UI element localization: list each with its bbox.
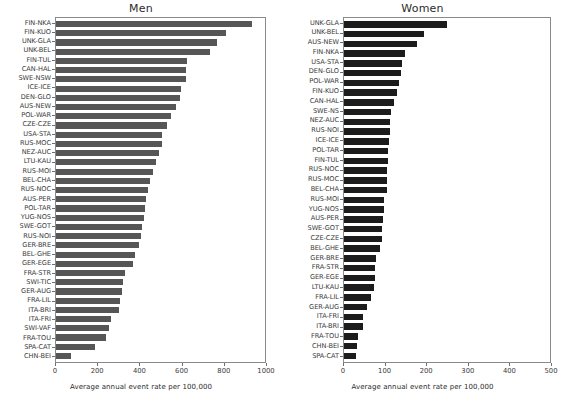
bar-row	[56, 333, 265, 342]
bar	[344, 216, 383, 222]
bar-row	[344, 312, 550, 322]
y-tick-label: GER-BRE	[0, 241, 51, 250]
x-tick-label: 0	[53, 367, 57, 375]
bar	[344, 119, 390, 125]
bar-row	[56, 167, 265, 176]
bar-series-women	[344, 18, 550, 362]
y-tick-label: POL-TAR	[288, 146, 339, 156]
bar	[344, 148, 388, 154]
x-axis-men: 02004006008001000	[55, 363, 266, 385]
bar-row	[344, 205, 550, 215]
y-axis-labels-women: UNK-GLAUNK-BELAUS-NEWFIN-NKAUSA-STADEN-G…	[288, 17, 339, 363]
x-tick-mark	[509, 363, 510, 366]
panel-title-women: Women	[282, 2, 563, 15]
bar	[344, 80, 399, 86]
bar	[344, 226, 382, 232]
y-tick-label: CAN-HAL	[0, 65, 51, 74]
bar-row	[56, 351, 265, 360]
y-tick-label: POL-WAR	[0, 111, 51, 120]
bar	[56, 316, 111, 322]
bar-row	[344, 59, 550, 69]
y-tick-label: RUS-MOI	[0, 167, 51, 176]
y-tick-label: LTU-KAU	[288, 283, 339, 293]
x-tick-mark	[385, 363, 386, 366]
bar-row	[344, 146, 550, 156]
x-tick-label: 400	[133, 367, 146, 375]
x-tick-label: 500	[545, 367, 558, 375]
y-tick-label: RUS-NOI	[288, 126, 339, 136]
y-tick-label: BEL-CHA	[288, 185, 339, 195]
y-tick-label: AUS-NEW	[288, 38, 339, 48]
y-tick-label: YUG-NOS	[0, 213, 51, 222]
bar	[344, 158, 388, 164]
bar-row	[56, 232, 265, 241]
figure-root: Men FIN-NKAFIN-KUOUNK-GLAUNK-BELFIN-TULC…	[0, 0, 563, 411]
bar-row	[56, 158, 265, 167]
bar-row	[344, 29, 550, 39]
bar	[56, 30, 226, 36]
y-tick-label: LTU-KAU	[0, 157, 51, 166]
bar-row	[56, 47, 265, 56]
y-tick-label: UNK-BEL	[0, 46, 51, 55]
bar	[344, 255, 376, 261]
bar	[344, 89, 397, 95]
bar-series-men	[56, 18, 265, 362]
bar-row	[56, 287, 265, 296]
y-tick-label: RUS-MOC	[0, 139, 51, 148]
bar	[344, 187, 387, 193]
x-axis-title-women: Average annual event rate per 100,000	[282, 383, 563, 391]
bar	[344, 314, 363, 320]
bar-row	[344, 195, 550, 205]
plot-area-women	[343, 17, 551, 363]
y-tick-label: ITA-BRI	[0, 306, 51, 315]
x-tick-mark	[139, 363, 140, 366]
bar-row	[56, 75, 265, 84]
y-tick-label: GER-BRE	[288, 254, 339, 264]
bar	[344, 197, 384, 203]
bar-row	[56, 204, 265, 213]
x-tick-label: 0	[341, 367, 345, 375]
bar	[344, 167, 387, 173]
y-tick-label: FIN-TUL	[288, 156, 339, 166]
bar-row	[344, 302, 550, 312]
bar-row	[56, 296, 265, 305]
bar	[344, 41, 417, 47]
y-tick-label: RUS-NOC	[0, 185, 51, 194]
y-tick-label: NEZ-AUC	[288, 116, 339, 126]
y-tick-label: SPA-CAT	[0, 343, 51, 352]
bar-row	[344, 185, 550, 195]
bar	[56, 252, 135, 258]
bar-row	[56, 195, 265, 204]
bar	[56, 279, 123, 285]
bar-row	[56, 20, 265, 29]
panel-title-men: Men	[0, 2, 282, 15]
y-tick-label: SWE-NS	[288, 107, 339, 117]
y-tick-label: UNK-GLA	[288, 19, 339, 29]
bar-row	[56, 130, 265, 139]
bar-row	[56, 324, 265, 333]
bar	[344, 109, 391, 115]
y-tick-label: GER-EGE	[288, 273, 339, 283]
y-tick-label: AUS-NEW	[0, 102, 51, 111]
y-tick-label: CHN-BEI	[0, 352, 51, 361]
bar	[56, 169, 153, 175]
y-tick-label: SPA-CAT	[288, 352, 339, 362]
bar	[56, 325, 109, 331]
bar	[56, 270, 125, 276]
y-tick-label: SWE-GOT	[0, 222, 51, 231]
bar-row	[344, 156, 550, 166]
bar-row	[344, 351, 550, 361]
bar-row	[56, 121, 265, 130]
bar	[344, 50, 405, 56]
bar	[344, 284, 374, 290]
y-tick-label: CHN-BEI	[288, 342, 339, 352]
y-tick-label: USA-STA	[288, 58, 339, 68]
x-tick-mark	[426, 363, 427, 366]
x-axis-women: 0100200300400500	[343, 363, 551, 385]
y-tick-label: FIN-NKA	[0, 19, 51, 28]
bar	[344, 353, 356, 359]
bar-row	[56, 259, 265, 268]
bar-row	[344, 244, 550, 254]
bar	[56, 21, 252, 27]
y-tick-label: AUS-PER	[288, 214, 339, 224]
